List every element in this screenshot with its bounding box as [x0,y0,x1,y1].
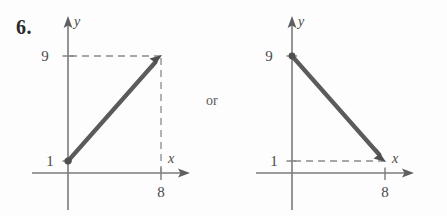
right-x-tick-label-8: 8 [381,184,389,200]
right-y-tick-label-9: 9 [265,48,273,64]
right-vector-start-dot [289,53,296,60]
right-graph-svg: y x 9 1 8 [0,0,447,216]
right-graph-labels: y x 9 1 8 [265,14,399,200]
right-graph-axes [256,16,414,210]
right-y-axis-label: y [296,14,305,29]
right-graph-vector [289,53,386,162]
right-y-tick-label-1: 1 [270,153,278,169]
right-vector-line [292,56,380,155]
figure-container: 6. or [0,0,447,216]
right-x-axis-label: x [391,151,399,166]
